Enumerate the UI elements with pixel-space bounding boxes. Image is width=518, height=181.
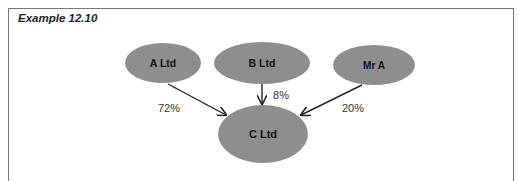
- node-a-ltd: A Ltd: [125, 43, 201, 83]
- node-label: Mr A: [363, 60, 385, 71]
- edge-label-20: 20%: [342, 102, 364, 114]
- node-label: A Ltd: [150, 57, 176, 69]
- node-c-ltd: C Ltd: [218, 105, 308, 163]
- edge-label-72: 72%: [158, 102, 180, 114]
- node-label: C Ltd: [249, 128, 277, 140]
- node-mr-a: Mr A: [333, 45, 415, 85]
- ownership-diagram: A Ltd B Ltd Mr A C Ltd 72% 8% 20%: [0, 0, 518, 181]
- node-label: B Ltd: [249, 57, 276, 69]
- node-b-ltd: B Ltd: [214, 42, 310, 84]
- edge-label-8: 8%: [273, 89, 289, 101]
